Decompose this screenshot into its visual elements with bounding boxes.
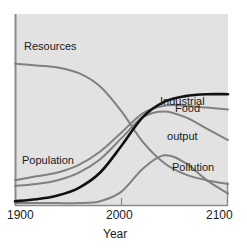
series-label-industrial-output: Industrial output xyxy=(160,73,205,165)
series-label-food: Food xyxy=(175,103,200,115)
series-label-resources: Resources xyxy=(24,41,77,53)
x-tick-label-1900: 1900 xyxy=(7,209,34,222)
series-label-pollution: Pollution xyxy=(172,162,214,174)
x-tick-label-2000: 2000 xyxy=(106,209,133,222)
series-label-industrial-output-line2: output xyxy=(160,131,205,143)
chart-figure: Resources Population Industrial output F… xyxy=(0,0,247,250)
x-tick-label-2100: 2100 xyxy=(206,209,233,222)
x-axis-title: Year xyxy=(103,228,127,241)
series-label-population: Population xyxy=(22,155,74,167)
